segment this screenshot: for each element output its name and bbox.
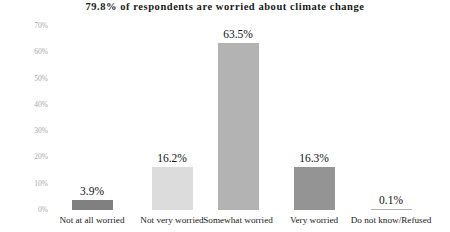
bar-1: [152, 167, 193, 210]
bar-2: [218, 43, 259, 210]
bar-4: [371, 209, 412, 210]
bar-value-label-0: 3.9%: [52, 185, 132, 198]
y-axis-tick-40: 40%: [18, 101, 48, 109]
bar-value-label-1: 16.2%: [132, 152, 212, 165]
y-axis-tick-0: 0%: [18, 206, 48, 214]
plot-area: 0%10%20%30%40%50%60%70% 3.9%16.2%63.5%16…: [0, 0, 450, 232]
y-axis-tick-30: 30%: [18, 127, 48, 135]
bar-value-label-2: 63.5%: [198, 28, 278, 41]
bar-3: [294, 167, 335, 210]
bar-value-label-3: 16.3%: [274, 152, 354, 165]
category-label-4: Do not know/Refused: [336, 215, 446, 226]
bar-0: [72, 200, 113, 210]
bar-value-label-4: 0.1%: [351, 194, 431, 207]
y-axis-tick-20: 20%: [18, 153, 48, 161]
y-axis-tick-10: 10%: [18, 180, 48, 188]
bar-chart: 79.8% of respondents are worried about c…: [0, 0, 450, 232]
y-axis-tick-70: 70%: [18, 22, 48, 30]
y-axis-tick-50: 50%: [18, 75, 48, 83]
y-axis-tick-60: 60%: [18, 48, 48, 56]
